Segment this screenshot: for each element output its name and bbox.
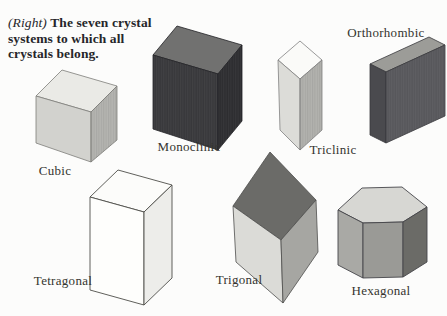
orthorhombic-left-face (370, 64, 386, 143)
caption-line-2: systems to which all (8, 31, 124, 46)
caption-line-3: crystals belong. (8, 46, 99, 61)
caption-prefix: (Right) (8, 15, 47, 30)
hexagonal-front-face (363, 222, 403, 278)
monoclinic-label: Monoclinic (158, 139, 221, 154)
cubic-solid: Cubic (36, 70, 117, 178)
trigonal-solid: Trigonal (216, 152, 318, 303)
figure-caption: (Right) The seven crystal systems to whi… (8, 15, 178, 62)
orthorhombic-label: Orthorhombic (347, 25, 424, 40)
trigonal-label: Trigonal (216, 272, 263, 287)
cubic-label: Cubic (39, 163, 72, 178)
caption-line-1: The seven crystal (50, 15, 151, 30)
triclinic-label: Triclinic (309, 142, 356, 157)
tetragonal-solid: Tetragonal (34, 170, 172, 305)
hexagonal-label: Hexagonal (351, 283, 410, 298)
triclinic-solid: Triclinic (278, 41, 357, 157)
tetragonal-label: Tetragonal (34, 273, 92, 288)
tetragonal-left-face (90, 197, 144, 305)
orthorhombic-solid: Orthorhombic (347, 25, 445, 143)
hexagonal-solid: Hexagonal (338, 187, 427, 298)
crystal-systems-figure: Cubic Monoclinic Triclinic Orthorhombic (0, 0, 447, 316)
